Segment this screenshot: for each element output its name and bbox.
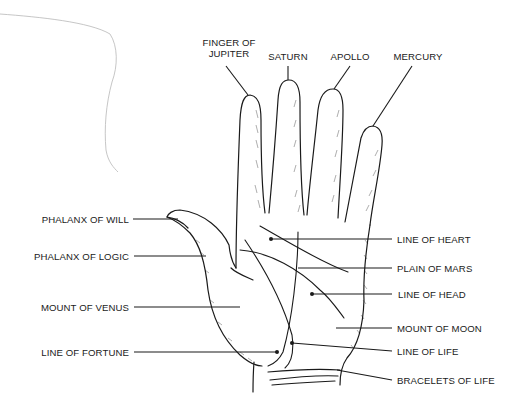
bracelet-2 (270, 376, 338, 380)
marker-dots (269, 237, 314, 354)
label-mount-moon: MOUNT OF MOON (397, 323, 482, 334)
label-line-head: LINE OF HEAD (398, 289, 466, 300)
wrist-left (253, 362, 254, 392)
leader-line-life (292, 343, 392, 351)
label-finger-jupiter-line1: FINGER OF (198, 37, 260, 48)
palm-right-edge (340, 225, 370, 385)
label-line-fortune: LINE OF FORTUNE (0, 347, 129, 358)
shading-hatch (196, 100, 378, 361)
label-phalanx-will: PHALANX OF WILL (0, 214, 129, 225)
label-finger-jupiter: FINGER OF JUPITER (198, 37, 260, 59)
leader-jupiter (226, 66, 248, 95)
thumb-outline (167, 210, 262, 366)
label-plain-mars: PLAIN OF MARS (397, 263, 472, 274)
label-phalanx-logic: PHALANX OF LOGIC (0, 251, 129, 262)
label-line-heart: LINE OF HEART (397, 234, 471, 245)
label-apollo: APOLLO (325, 51, 375, 62)
label-line-life: LINE OF LIFE (397, 346, 458, 357)
label-bracelets-life: BRACELETS OF LIFE (397, 375, 495, 386)
dot-line-heart (269, 237, 273, 241)
palmistry-diagram: FINGER OF JUPITER SATURN APOLLO MERCURY … (0, 0, 522, 420)
finger-saturn-outline (269, 80, 304, 215)
stray-line (0, 14, 118, 172)
bracelet-1 (268, 369, 340, 372)
leader-bracelets-life (337, 370, 392, 380)
dot-line-head (310, 292, 314, 296)
leader-apollo (334, 66, 350, 89)
label-mount-venus: MOUNT OF VENUS (0, 302, 129, 313)
finger-apollo-outline (307, 89, 343, 218)
hand-outline (167, 80, 382, 392)
life-line (245, 240, 293, 368)
dot-line-life (290, 341, 294, 345)
dot-line-fortune (275, 350, 279, 354)
finger-mercury-outline (345, 126, 382, 225)
label-mercury: MERCURY (390, 51, 446, 62)
fortune-line (268, 232, 298, 366)
bracelet-3 (272, 381, 335, 385)
label-saturn: SATURN (262, 51, 314, 62)
heart-line (260, 226, 348, 272)
finger-jupiter-outline (236, 95, 265, 268)
label-finger-jupiter-line2: JUPITER (198, 48, 260, 59)
leader-mercury (373, 66, 412, 126)
thumb-web (231, 268, 253, 280)
